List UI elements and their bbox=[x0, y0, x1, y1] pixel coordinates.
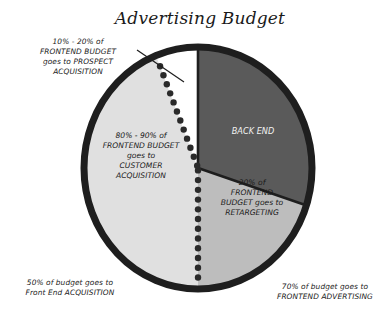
divider-dot bbox=[195, 196, 201, 202]
divider-dot bbox=[191, 154, 197, 160]
divider-dot bbox=[164, 81, 170, 87]
divider-dot bbox=[177, 117, 183, 123]
divider-dot bbox=[167, 90, 173, 96]
divider-dot bbox=[195, 216, 201, 222]
pie-chart: Advertising Budget BACK END20% ofFRONTEN… bbox=[0, 0, 391, 322]
divider-dot bbox=[170, 99, 176, 105]
annotation-line: Front End ACQUISITION bbox=[26, 288, 115, 297]
label-line: 20% of bbox=[239, 178, 267, 187]
label-line: 80% - 90% of bbox=[115, 131, 167, 140]
label-line: 10% - 20% of bbox=[53, 37, 105, 46]
label-line: RETARGETING bbox=[225, 208, 279, 217]
annotation-line: FRONTEND ADVERTISING bbox=[277, 292, 373, 301]
label-line: goes to PROSPECT bbox=[43, 57, 114, 66]
divider-dot bbox=[187, 144, 193, 150]
label-line: FRONTEND bbox=[231, 188, 273, 197]
divider-dot bbox=[180, 126, 186, 132]
divider-dot bbox=[195, 226, 201, 232]
label-line: BUDGET goes to bbox=[221, 198, 284, 207]
divider-dot bbox=[195, 187, 201, 193]
divider-dot bbox=[184, 135, 190, 141]
label-line: FRONTEND BUDGET bbox=[40, 47, 116, 56]
divider-dot bbox=[195, 206, 201, 212]
annotation-line: 50% of budget goes to bbox=[27, 278, 114, 287]
label-line: FRONTEND BUDGET bbox=[103, 141, 181, 150]
label-line: goes to bbox=[127, 151, 155, 160]
label-prospect-acquisition: 10% - 20% ofFRONTEND BUDGETgoes to PROSP… bbox=[40, 37, 116, 76]
label-line: ACQUISITION bbox=[115, 171, 166, 180]
label-line: ACQUISITION bbox=[52, 67, 103, 76]
divider-dot bbox=[160, 72, 166, 78]
divider-dot bbox=[194, 163, 200, 169]
divider-dot bbox=[174, 108, 180, 114]
frontend-advertising-note: 70% of budget goes toFRONTEND ADVERTISIN… bbox=[277, 282, 373, 301]
label-back-end: BACK END bbox=[232, 126, 275, 136]
chart-title: Advertising Budget bbox=[113, 8, 285, 28]
frontend-acquisition-note: 50% of budget goes toFront End ACQUISITI… bbox=[26, 278, 115, 297]
divider-dot bbox=[195, 177, 201, 183]
divider-dot bbox=[195, 274, 201, 280]
divider-dot bbox=[195, 265, 201, 271]
label-line: BACK END bbox=[232, 126, 275, 136]
divider-dot bbox=[195, 255, 201, 261]
divider-dot bbox=[195, 235, 201, 241]
label-line: CUSTOMER bbox=[120, 161, 163, 170]
annotation-line: 70% of budget goes to bbox=[282, 282, 369, 291]
divider-dot bbox=[195, 245, 201, 251]
